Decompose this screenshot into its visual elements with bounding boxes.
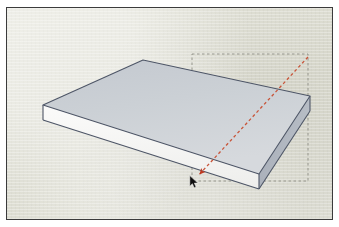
screenshot-root <box>0 0 339 227</box>
viewport-frame <box>6 7 333 220</box>
scene-svg <box>7 8 333 220</box>
rectangular-slab[interactable] <box>43 60 310 189</box>
